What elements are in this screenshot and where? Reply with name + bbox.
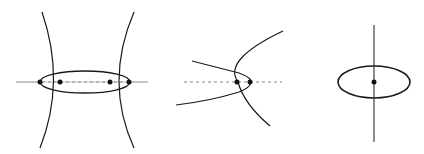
ellipse-arc: [176, 61, 251, 105]
point: [38, 80, 43, 85]
point: [235, 80, 240, 85]
parabola: [235, 31, 283, 126]
point: [127, 80, 132, 85]
point: [248, 80, 253, 85]
point: [108, 80, 113, 85]
center-point: [372, 80, 377, 85]
panel-3: [338, 25, 410, 142]
point: [58, 80, 63, 85]
diagram-canvas: [0, 0, 424, 154]
left-hyperbola-branch: [40, 12, 54, 148]
panel-2: [176, 31, 283, 126]
right-hyperbola-branch: [119, 12, 134, 148]
panel-1: [16, 12, 148, 148]
